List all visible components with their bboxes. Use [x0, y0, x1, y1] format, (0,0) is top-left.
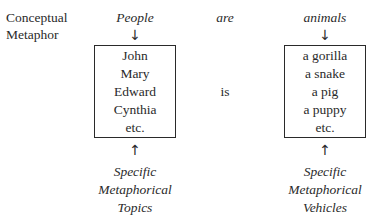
vehicle-item: etc. [285, 119, 365, 137]
vehicles-box: a gorilla a snake a pig a puppy etc. [284, 45, 366, 138]
topic-item: Cynthia [95, 101, 175, 119]
vehicle-item: a snake [285, 65, 365, 83]
down-arrow-icon: ↓ [94, 28, 176, 42]
up-arrow-icon: ↑ [94, 143, 176, 157]
topic-item: John [95, 47, 175, 65]
conceptual-metaphor-label: Conceptual Metaphor [6, 9, 67, 43]
topic-item: Mary [95, 65, 175, 83]
vehicle-item: a gorilla [285, 47, 365, 65]
caption-line: Specific [274, 163, 376, 181]
topic-item: etc. [95, 119, 175, 137]
label-line: Metaphor [6, 26, 67, 43]
topics-box: John Mary Edward Cynthia etc. [94, 45, 176, 138]
caption-line: Specific [84, 163, 186, 181]
topics-caption: Specific Metaphorical Topics [84, 163, 186, 217]
vehicle-item: a pig [285, 83, 365, 101]
up-arrow-icon: ↑ [284, 143, 366, 157]
vehicles-caption: Specific Metaphorical Vehicles [274, 163, 376, 217]
topic-item: Edward [95, 83, 175, 101]
caption-line: Vehicles [274, 199, 376, 217]
copula-is: is [200, 83, 250, 101]
caption-line: Metaphorical [84, 181, 186, 199]
label-line: Conceptual [6, 9, 67, 26]
caption-line: Metaphorical [274, 181, 376, 199]
vehicle-item: a puppy [285, 101, 365, 119]
topic-domain-heading: People [94, 9, 176, 26]
caption-line: Topics [84, 199, 186, 217]
vehicle-domain-heading: animals [284, 9, 366, 26]
down-arrow-icon: ↓ [284, 28, 366, 42]
copula-are: are [200, 9, 250, 26]
